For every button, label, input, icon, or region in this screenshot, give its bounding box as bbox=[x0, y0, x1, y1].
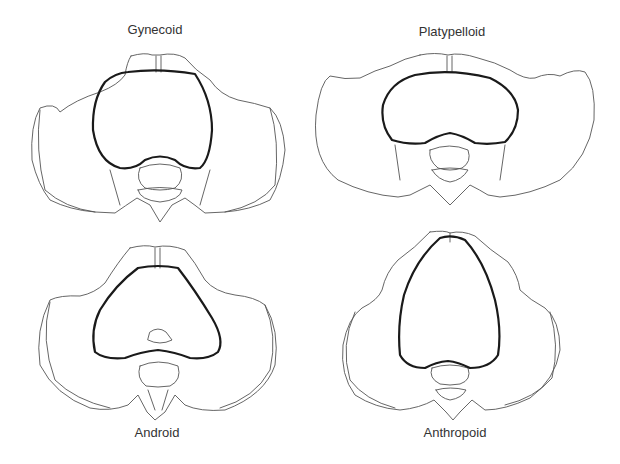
pelvis-gynecoid bbox=[32, 54, 285, 222]
pelvis-diagram bbox=[0, 0, 620, 464]
pelvis-anthropoid bbox=[343, 231, 561, 420]
pelvis-platypelloid bbox=[315, 54, 594, 206]
pelvis-android bbox=[39, 246, 277, 420]
